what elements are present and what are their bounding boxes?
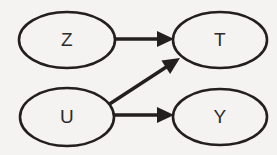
causal-dag-svg: Z T U Y [0, 0, 277, 155]
node-u: U [20, 88, 114, 146]
node-t-label: T [214, 29, 226, 50]
edges-layer [108, 31, 180, 123]
node-u-label: U [60, 106, 74, 127]
node-y: Y [173, 89, 267, 145]
edge-z-to-t-arrowhead [157, 31, 174, 47]
node-t: T [173, 12, 267, 68]
nodes-layer: Z T U Y [19, 12, 267, 146]
edge-u-to-y-arrowhead [157, 107, 174, 123]
node-z: Z [19, 12, 115, 68]
edge-u-to-y [112, 107, 174, 123]
edge-u-to-t [108, 58, 180, 105]
edge-z-to-t [114, 31, 174, 47]
edge-u-to-t-line [108, 66, 167, 105]
node-y-label: Y [213, 106, 226, 127]
node-z-label: Z [61, 29, 73, 50]
diagram-canvas: Z T U Y [0, 0, 277, 155]
edge-u-to-t-arrowhead [161, 58, 180, 74]
